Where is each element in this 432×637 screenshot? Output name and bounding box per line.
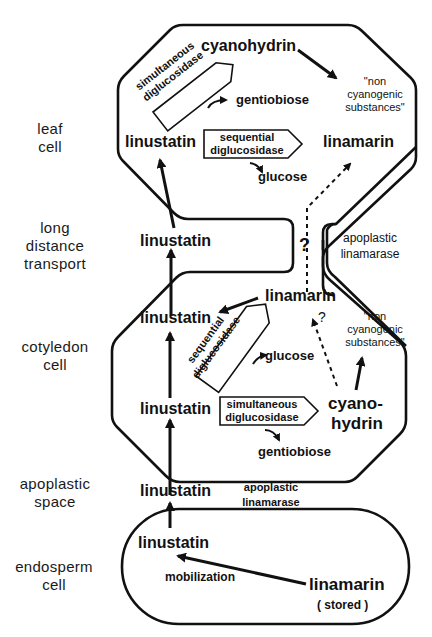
row-label-endosperm-cell: endosperm cell xyxy=(8,558,100,594)
row-label-cotyledon-cell: cotyledon cell xyxy=(10,338,100,374)
label-line: cell xyxy=(10,138,90,156)
row-label-leaf-cell: leaf cell xyxy=(10,120,90,156)
cotyledon-non-cyanogenic: "non cyanogenic substances" xyxy=(335,310,415,349)
label-line: endosperm xyxy=(8,558,100,576)
text-line: diglucosidase xyxy=(207,144,287,157)
cotyledon-linustatin-top: linustatin xyxy=(140,309,211,327)
text-line: linamarase xyxy=(335,246,405,262)
leaf-cyanohydrin: cyanohydrin xyxy=(201,37,296,55)
label-line: apoplastic xyxy=(10,475,100,493)
cotyledon-cyanohydrin: cyano- hydrin xyxy=(328,394,383,434)
text-line: linamarase xyxy=(236,495,306,510)
text-line: "non xyxy=(335,310,415,323)
endosperm-mobilization: mobilization xyxy=(165,570,235,584)
text-line: simultaneous xyxy=(222,398,302,411)
label-line: cell xyxy=(10,356,100,374)
endosperm-linamarin: linamarin xyxy=(309,575,385,595)
cotyledon-linustatin-bottom: linustatin xyxy=(140,400,211,418)
endosperm-linustatin: linustatin xyxy=(138,534,209,552)
text-line: "non xyxy=(340,75,410,88)
row-label-long-distance-transport: long distance transport xyxy=(10,219,100,273)
transport-apoplastic-linamarase: apoplastic linamarase xyxy=(335,230,405,262)
endosperm-stored: ( stored ) xyxy=(317,598,368,612)
label-line: leaf xyxy=(10,120,90,138)
text-line: apoplastic xyxy=(335,230,405,246)
cotyledon-gentiobiose: gentiobiose xyxy=(258,444,331,459)
cotyledon-simultaneous-diglucosidase: simultaneous diglucosidase xyxy=(222,398,302,424)
transport-linustatin: linustatin xyxy=(140,232,211,250)
text-line: substances" xyxy=(340,101,410,114)
label-line: cotyledon xyxy=(10,338,100,356)
cotyledon-glucose: glucose xyxy=(265,348,314,363)
label-line: cell xyxy=(8,576,100,594)
leaf-gentiobiose: gentiobiose xyxy=(236,92,309,107)
transport-question-mark: ? xyxy=(299,235,310,256)
leaf-glucose: glucose xyxy=(258,169,307,184)
label-line: distance xyxy=(10,237,100,255)
label-line: space xyxy=(10,493,100,511)
row-label-apoplastic-space: apoplastic space xyxy=(10,475,100,511)
text-line: hydrin xyxy=(328,414,383,434)
apoplast-linustatin: linustatin xyxy=(140,482,211,500)
cotyledon-linamarin: linamarin xyxy=(265,287,336,305)
label-line: long xyxy=(10,219,100,237)
text-line: sequential xyxy=(207,131,287,144)
leaf-non-cyanogenic: "non cyanogenic substances" xyxy=(340,75,410,114)
text-line: cyanogenic xyxy=(340,88,410,101)
apoplast-apoplastic-linamarase: apoplastic linamarase xyxy=(236,480,306,510)
text-line: cyanogenic xyxy=(335,323,415,336)
text-line: apoplastic xyxy=(236,480,306,495)
leaf-linamarin: linamarin xyxy=(323,133,394,151)
label-line: transport xyxy=(10,255,100,273)
text-line: substances" xyxy=(335,336,415,349)
text-line: cyano- xyxy=(328,394,383,414)
text-line: diglucosidase xyxy=(222,411,302,424)
leaf-linustatin: linustatin xyxy=(125,133,196,151)
cotyledon-question-mark: ? xyxy=(318,309,326,325)
leaf-sequential-diglucosidase: sequential diglucosidase xyxy=(207,131,287,157)
